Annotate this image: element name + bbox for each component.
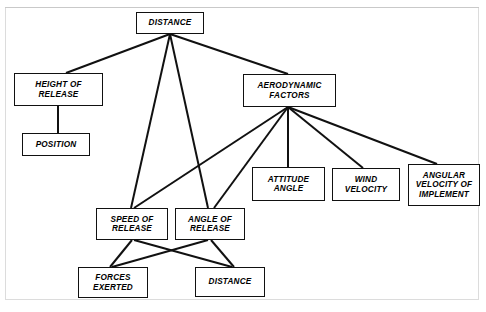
- node-attitude_angle: ATTITUDE ANGLE: [252, 167, 325, 201]
- node-label-position: POSITION: [36, 140, 77, 149]
- node-angular_velocity_of_implement: ANGULAR VELOCITY OF IMPLEMENT: [408, 164, 480, 206]
- node-label-distance_bottom: DISTANCE: [209, 277, 252, 286]
- node-label-height_of_release: HEIGHT OF RELEASE: [35, 80, 81, 98]
- node-aerodynamic_factors: AERODYNAMIC FACTORS: [243, 74, 336, 107]
- node-height_of_release: HEIGHT OF RELEASE: [14, 73, 103, 106]
- connector-distance_top-to-height_of_release: [66, 34, 170, 73]
- node-label-angle_of_release: ANGLE OF RELEASE: [188, 215, 232, 233]
- node-label-attitude_angle: ATTITUDE ANGLE: [268, 175, 309, 193]
- node-distance_top: DISTANCE: [136, 12, 204, 34]
- connector-angle_of_release-to-forces_exerted: [112, 240, 208, 267]
- node-forces_exerted: FORCES EXERTED: [78, 267, 148, 298]
- diagram-canvas: DISTANCEHEIGHT OF RELEASEPOSITIONAERODYN…: [0, 0, 486, 312]
- node-label-forces_exerted: FORCES EXERTED: [93, 273, 133, 291]
- connector-layer: [0, 0, 486, 312]
- connector-aerodynamic_factors-to-angular_velocity_of_implement: [288, 107, 437, 164]
- node-label-speed_of_release: SPEED OF RELEASE: [110, 215, 153, 233]
- node-wind_velocity: WIND VELOCITY: [332, 168, 400, 201]
- node-distance_bottom: DISTANCE: [195, 267, 265, 297]
- node-angle_of_release: ANGLE OF RELEASE: [175, 208, 245, 240]
- connector-distance_top-to-speed_of_release: [131, 34, 170, 208]
- node-speed_of_release: SPEED OF RELEASE: [96, 208, 168, 240]
- connector-distance_top-to-aerodynamic_factors: [170, 34, 288, 74]
- node-label-distance_top: DISTANCE: [149, 18, 192, 27]
- connector-speed_of_release-to-distance_bottom: [134, 240, 232, 267]
- node-label-aerodynamic_factors: AERODYNAMIC FACTORS: [257, 81, 321, 99]
- node-label-angular_velocity_of_implement: ANGULAR VELOCITY OF IMPLEMENT: [416, 171, 473, 199]
- node-position: POSITION: [22, 133, 90, 156]
- connector-aerodynamic_factors-to-wind_velocity: [288, 107, 363, 168]
- node-label-wind_velocity: WIND VELOCITY: [345, 175, 388, 193]
- connector-distance_top-to-angle_of_release: [170, 34, 208, 208]
